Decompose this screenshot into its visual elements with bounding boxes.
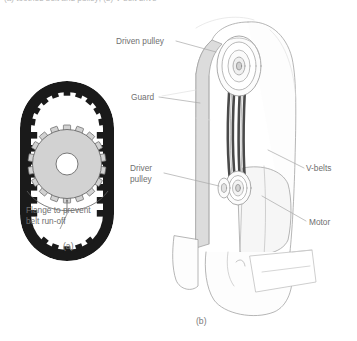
driven-pulley — [217, 36, 261, 96]
label-driven-pulley: Driven pulley — [116, 36, 164, 47]
base-left-column — [173, 236, 198, 289]
label-driver-pulley: Driver pulley — [130, 163, 152, 185]
label-guard: Guard — [131, 92, 154, 103]
label-v-belts: V-belts — [306, 163, 331, 174]
panel-b-vbelt-drive — [0, 0, 357, 341]
base-pedestal — [205, 250, 316, 316]
panel-b-sublabel: (b) — [196, 316, 207, 326]
label-motor: Motor — [309, 217, 330, 228]
driver-pulley — [218, 171, 251, 205]
